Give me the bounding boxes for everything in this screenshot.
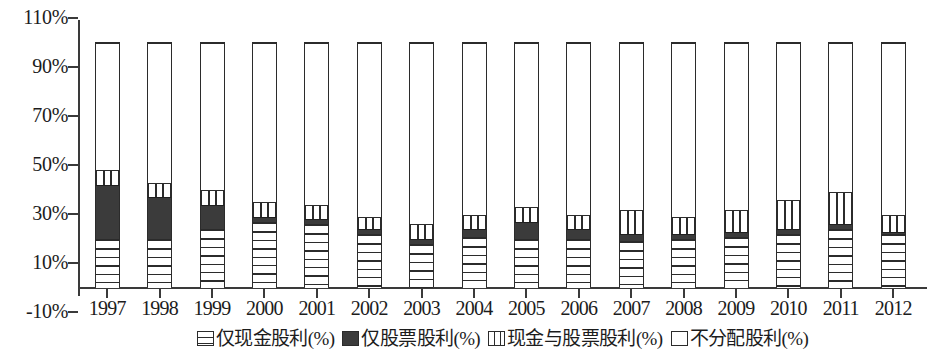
bar-segment <box>410 224 433 239</box>
bar-segment <box>358 229 381 234</box>
bar-segment <box>463 237 486 288</box>
bar-segment <box>253 43 276 202</box>
bar-segment <box>829 192 852 224</box>
bar-segment <box>882 232 905 234</box>
horizontal-hatch-icon <box>197 331 214 346</box>
bar-segment <box>410 43 433 224</box>
legend-item-label: 不分配股利(%) <box>690 328 809 349</box>
y-axis-tick <box>68 311 78 313</box>
bar-segment <box>672 234 695 239</box>
bar-segment <box>410 244 433 288</box>
legend-item-2: 现金与股票股利(%) <box>488 328 662 349</box>
bar-segment <box>620 241 643 288</box>
bar-segment <box>829 224 852 229</box>
bar-2000 <box>252 42 277 287</box>
bar-segment <box>777 229 800 234</box>
bar-segment <box>829 229 852 288</box>
bar-segment <box>567 215 590 230</box>
y-axis-tick <box>68 213 78 215</box>
y-axis-tick-label: 70% <box>2 105 68 125</box>
bar-2011 <box>828 42 853 287</box>
vertical-hatch-icon <box>488 331 505 346</box>
bar-segment <box>725 232 748 237</box>
y-axis-tick-label-wrap: 90% <box>0 56 68 76</box>
bar-1997 <box>95 42 120 287</box>
bar-segment <box>305 205 328 220</box>
y-axis-tick-label-wrap: -10% <box>0 301 68 321</box>
x-axis-tick-label: 1999 <box>186 297 238 319</box>
y-axis-tick <box>68 17 78 19</box>
x-axis-tick-label: 2006 <box>553 297 605 319</box>
y-axis-tick-label: 30% <box>2 203 68 223</box>
x-axis-tick-label: 1997 <box>81 297 133 319</box>
bar-2008 <box>671 42 696 287</box>
bar-segment <box>463 229 486 236</box>
bar-segment <box>148 43 171 183</box>
bar-segment <box>253 222 276 288</box>
bar-segment <box>305 43 328 205</box>
bar-2004 <box>462 42 487 287</box>
y-axis-tick-label: 10% <box>2 252 68 272</box>
y-axis-tick <box>68 66 78 68</box>
bar-segment <box>148 197 171 239</box>
legend-item-label: 仅现金股利(%) <box>216 328 335 349</box>
y-axis-tick-label-wrap: 50% <box>0 154 68 174</box>
y-axis-tick <box>68 262 78 264</box>
chart-legend: 仅现金股利(%)仅股票股利(%)现金与股票股利(%)不分配股利(%) <box>78 328 927 349</box>
legend-item-3: 不分配股利(%) <box>671 328 809 349</box>
bar-segment <box>253 217 276 222</box>
bar-segment <box>96 170 119 185</box>
bar-2010 <box>776 42 801 287</box>
bar-segment <box>620 210 643 235</box>
bar-segment <box>567 43 590 215</box>
bar-2002 <box>357 42 382 287</box>
bar-segment <box>305 224 328 288</box>
bar-2006 <box>566 42 591 287</box>
bar-segment <box>201 190 224 205</box>
x-axis-tick-label: 2011 <box>815 297 867 319</box>
bar-segment <box>725 43 748 210</box>
x-axis-tick-label: 2002 <box>343 297 395 319</box>
bar-2009 <box>724 42 749 287</box>
bar-segment <box>882 43 905 215</box>
bar-segment <box>882 215 905 232</box>
bar-2005 <box>514 42 539 287</box>
x-axis-tick-label: 2008 <box>657 297 709 319</box>
x-axis-tick-label: 2004 <box>448 297 500 319</box>
bar-segment <box>96 185 119 239</box>
bar-segment <box>148 183 171 198</box>
bar-segment <box>829 43 852 192</box>
x-axis-tick-label: 1998 <box>133 297 185 319</box>
bar-segment <box>515 239 538 288</box>
bar-segment <box>725 210 748 232</box>
bar-segment <box>672 43 695 217</box>
bar-segment <box>620 234 643 241</box>
bar-segment <box>148 239 171 288</box>
bar-segment <box>672 217 695 234</box>
bar-segment <box>515 222 538 239</box>
bar-segment <box>410 239 433 244</box>
bar-segment <box>567 229 590 239</box>
y-axis-tick <box>68 164 78 166</box>
x-axis-tick-label: 2010 <box>762 297 814 319</box>
bar-2003 <box>409 42 434 287</box>
y-axis-tick-label-wrap: 110% <box>0 7 68 27</box>
x-axis-tick-label: 2000 <box>238 297 290 319</box>
bar-segment <box>358 234 381 288</box>
y-axis-tick-label: 110% <box>2 7 68 27</box>
bar-2012 <box>881 42 906 287</box>
bar-segment <box>515 207 538 222</box>
x-axis-tick-label: 2003 <box>395 297 447 319</box>
y-axis-tick-label: 50% <box>2 154 68 174</box>
bar-segment <box>672 239 695 288</box>
bar-segment <box>725 237 748 288</box>
bar-segment <box>358 217 381 229</box>
y-axis-line <box>78 20 80 296</box>
bar-segment <box>201 205 224 230</box>
bar-segment <box>201 229 224 288</box>
bar-segment <box>515 43 538 207</box>
legend-item-label: 现金与股票股利(%) <box>507 328 662 349</box>
legend-item-label: 仅股票股利(%) <box>361 328 480 349</box>
empty-icon <box>671 331 688 346</box>
x-axis-tick-label: 2005 <box>500 297 552 319</box>
